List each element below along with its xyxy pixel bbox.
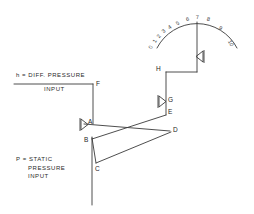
diff-pressure-bottom-label: INPUT [44,86,65,93]
point-label-d: D [173,126,178,133]
point-label-g: G [168,96,173,103]
point-label-h: H [156,65,161,72]
link-b-e [92,115,166,139]
scale-tick-7: 7 [196,14,199,20]
point-label-e: E [168,108,173,115]
point-label-f: F [96,80,100,87]
static-pressure-line-3: INPUT [16,172,65,181]
point-label-a: A [88,118,93,125]
pivot-g [158,95,166,108]
static-pressure-label: P = STATIC PRESSURE INPUT [16,155,65,181]
point-label-b: B [84,136,89,143]
link-b-c [92,138,96,163]
static-pressure-line-2: PRESSURE [16,164,65,173]
diagram-linework [0,0,254,214]
link-c-d [96,132,171,163]
diagram-canvas: h = DIFF. PRESSURE INPUT P = STATIC PRES… [0,0,254,214]
point-label-c: C [95,165,100,172]
diff-pressure-top-label: h = DIFF. PRESSURE [16,72,85,79]
static-pressure-line-1: P = STATIC [16,155,65,164]
